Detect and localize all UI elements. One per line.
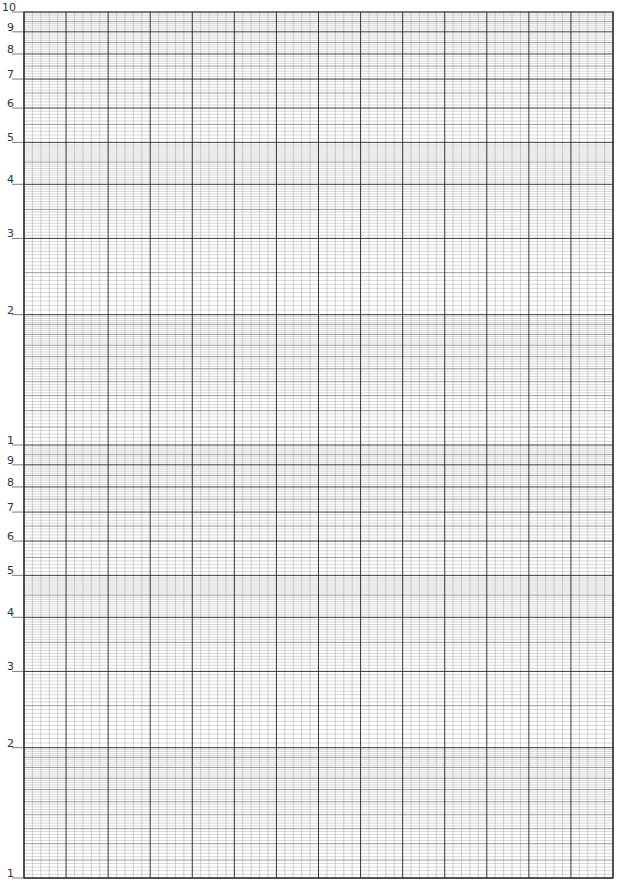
y-axis-label: 6 [7,530,14,543]
y-axis-label: 4 [7,606,14,619]
y-axis-label: 2 [7,737,14,750]
y-axis-label: 5 [7,564,14,577]
y-axis-label: 1 [7,434,14,447]
y-axis-label: 8 [7,43,14,56]
y-axis-label: 5 [7,131,14,144]
y-axis-label: 9 [7,21,14,34]
y-axis-label: 7 [7,68,14,81]
y-axis-labels: 10987654321987654321 [2,1,16,880]
y-axis-label: 10 [2,1,16,14]
y-axis-label: 4 [7,173,14,186]
y-axis-label: 6 [7,97,14,110]
semilog-graph-paper: 10987654321987654321 [0,0,624,887]
y-axis-label: 3 [7,660,14,673]
y-axis-label: 9 [7,454,14,467]
y-axis-label: 8 [7,476,14,489]
y-axis-label: 1 [7,867,14,880]
y-axis-label: 7 [7,501,14,514]
y-axis-label: 3 [7,227,14,240]
y-axis-label: 2 [7,304,14,317]
